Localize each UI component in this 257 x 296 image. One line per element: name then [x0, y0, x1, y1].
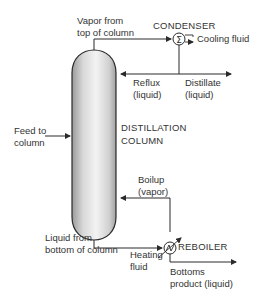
- reflux-label: Reflux (liquid): [133, 77, 162, 100]
- column-label-line2: COLUMN: [121, 135, 187, 147]
- boilup-line2: (vapor): [138, 186, 168, 198]
- vapor-top-label: Vapor from top of column: [77, 15, 134, 38]
- cooling-fluid-lines: [185, 35, 193, 42]
- liquid-bottom-line2: bottom of column: [45, 244, 118, 256]
- column-label-line1: DISTILLATION: [121, 122, 187, 134]
- feed-line2: column: [14, 137, 46, 149]
- liquid-bottom-line1: Liquid from: [45, 232, 118, 244]
- reflux-line2: (liquid): [133, 89, 162, 101]
- vapor-top-line1: Vapor from: [77, 15, 134, 27]
- condenser-icon: Σ: [173, 33, 185, 45]
- vapor-top-line2: top of column: [77, 27, 134, 39]
- vapor-line: [94, 39, 171, 50]
- reboiler-label: REBOILER: [178, 241, 228, 253]
- reflux-line1: Reflux: [133, 77, 162, 89]
- svg-text:Σ: Σ: [176, 35, 182, 45]
- heating-fluid-line2: fluid: [130, 261, 163, 273]
- bottoms-line2: product (liquid): [170, 278, 233, 290]
- bottoms-line1: Bottoms: [170, 266, 233, 278]
- distillate-label: Distillate (liquid): [185, 77, 221, 100]
- distillation-column: [72, 50, 116, 240]
- heating-fluid-line1: Heating: [130, 249, 163, 261]
- cooling-fluid-label: Cooling fluid: [197, 33, 249, 45]
- feed-label: Feed to column: [14, 125, 46, 148]
- distillate-line1: Distillate: [185, 77, 221, 89]
- liquid-bottom-label: Liquid from bottom of column: [45, 232, 118, 255]
- bottoms-arrow: [170, 254, 236, 262]
- column-label: DISTILLATION COLUMN: [121, 122, 187, 146]
- boilup-label: Boilup (vapor): [138, 174, 168, 197]
- feed-line1: Feed to: [14, 125, 46, 137]
- distillate-line2: (liquid): [185, 89, 221, 101]
- boilup-line1: Boilup: [138, 174, 168, 186]
- heating-fluid-label: Heating fluid: [130, 249, 163, 272]
- bottoms-label: Bottoms product (liquid): [170, 266, 233, 289]
- condenser-label: CONDENSER: [153, 20, 216, 32]
- boilup-arrow: [121, 198, 170, 232]
